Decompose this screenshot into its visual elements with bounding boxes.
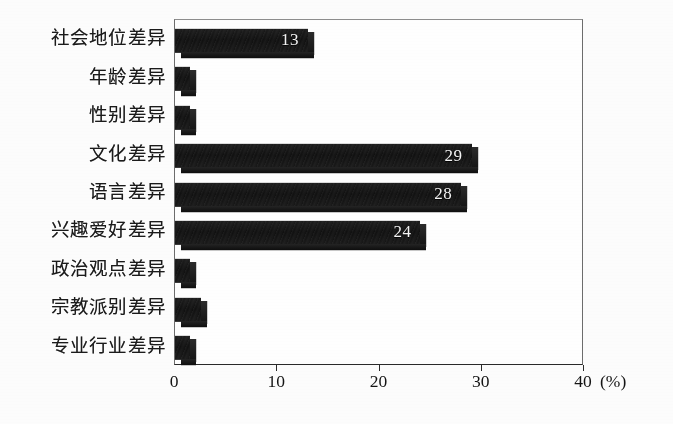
bar <box>175 105 190 130</box>
category-label: 政治观点差异 <box>0 260 166 279</box>
bar-3d-base <box>181 52 314 59</box>
bar-3d-base <box>181 321 207 328</box>
bar-3d-base <box>181 129 196 136</box>
bar-value-label: 28 <box>434 185 452 202</box>
bar-series: 13292824 <box>175 20 582 364</box>
category-label: 性别差异 <box>0 106 166 125</box>
x-tick-label: 30 <box>472 373 490 391</box>
bar <box>175 258 190 283</box>
bar-value-label: 29 <box>445 147 463 164</box>
category-axis-labels: 社会地位差异年龄差异性别差异文化差异语言差异兴趣爱好差异政治观点差异宗教派别差异… <box>0 19 166 365</box>
x-tick-label: 10 <box>268 373 286 391</box>
bar-3d-base <box>181 282 196 289</box>
category-label: 语言差异 <box>0 183 166 202</box>
category-label: 社会地位差异 <box>0 29 166 48</box>
category-label: 文化差异 <box>0 145 166 164</box>
category-label: 年龄差异 <box>0 68 166 87</box>
bar: 13 <box>175 28 308 53</box>
x-axis-unit-label: (%) <box>600 373 626 391</box>
bar-3d-base <box>181 244 426 251</box>
x-tick-label: 0 <box>170 373 179 391</box>
plot-area: 13292824 <box>174 19 583 365</box>
x-tick-label: 40 <box>574 373 592 391</box>
bar-3d-base <box>181 167 478 174</box>
bar-3d-base <box>181 206 467 213</box>
bar: 28 <box>175 182 461 207</box>
x-tick-label: 20 <box>370 373 388 391</box>
bar <box>175 66 190 91</box>
category-label: 兴趣爱好差异 <box>0 221 166 240</box>
x-axis: 010203040 <box>174 365 583 405</box>
bar-chart-figure: 社会地位差异年龄差异性别差异文化差异语言差异兴趣爱好差异政治观点差异宗教派别差异… <box>0 0 673 424</box>
bar <box>175 297 201 322</box>
bar-3d-base <box>181 90 196 97</box>
bar: 29 <box>175 143 472 168</box>
bar: 24 <box>175 220 420 245</box>
category-label: 宗教派别差异 <box>0 298 166 317</box>
bar-value-label: 13 <box>281 31 299 48</box>
bar-value-label: 24 <box>393 224 411 241</box>
category-label: 专业行业差异 <box>0 337 166 356</box>
bar <box>175 335 190 360</box>
